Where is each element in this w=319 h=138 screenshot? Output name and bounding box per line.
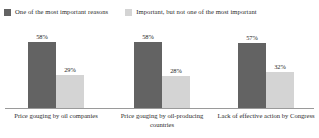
bar-group-lack-of-effective-action-by-congress: 57% 32% xyxy=(222,22,310,108)
x-axis-baseline xyxy=(5,108,314,109)
legend-swatch-dark xyxy=(4,9,11,16)
bar-group-price-gouging-by-oil-companies: 58% 29% xyxy=(12,22,100,108)
category-axis-labels: Price gouging by oil companies Price gou… xyxy=(0,112,319,138)
bar-group-bars: 58% 28% xyxy=(118,22,206,108)
grouped-bar-chart: One of the most important reasons Import… xyxy=(0,0,319,138)
bar-wrap-0-0: 58% xyxy=(28,22,56,108)
bar-1-2 xyxy=(266,72,294,108)
legend-item-important-but-not-one-of-the-most-important: Important, but not one of the most impor… xyxy=(125,8,256,16)
bar-0-2 xyxy=(238,43,266,108)
legend-label-0: One of the most important reasons xyxy=(15,8,108,16)
bar-wrap-1-2: 32% xyxy=(266,22,294,108)
bar-group-bars: 58% 29% xyxy=(12,22,100,108)
chart-legend: One of the most important reasons Import… xyxy=(0,4,319,20)
bar-wrap-1-0: 29% xyxy=(56,22,84,108)
bar-wrap-1-1: 28% xyxy=(162,22,190,108)
legend-item-one-of-the-most-important-reasons: One of the most important reasons xyxy=(4,8,108,16)
bar-value-1-2: 32% xyxy=(274,63,286,71)
category-label-0: Price gouging by oil companies xyxy=(4,112,108,121)
bar-value-0-0: 58% xyxy=(36,33,48,41)
bar-0-1 xyxy=(134,42,162,108)
legend-swatch-light xyxy=(125,9,132,16)
bar-1-0 xyxy=(56,75,84,108)
bar-1-1 xyxy=(162,76,190,108)
bar-group-price-gouging-by-oil-producing-countries: 58% 28% xyxy=(118,22,206,108)
bar-wrap-0-1: 58% xyxy=(134,22,162,108)
legend-label-1: Important, but not one of the most impor… xyxy=(136,8,256,16)
plot-area: 58% 29% 58% 28% xyxy=(0,22,319,109)
category-label-1: Price gouging by oil-producing countries xyxy=(108,112,216,129)
bar-0-0 xyxy=(28,42,56,108)
bar-value-1-0: 29% xyxy=(64,66,76,74)
bar-value-0-2: 57% xyxy=(246,34,258,42)
bar-group-bars: 57% 32% xyxy=(222,22,310,108)
category-label-2: Lack of effective action by Congress xyxy=(216,112,316,121)
bar-value-0-1: 58% xyxy=(142,33,154,41)
bar-wrap-0-2: 57% xyxy=(238,22,266,108)
bar-value-1-1: 28% xyxy=(170,67,182,75)
